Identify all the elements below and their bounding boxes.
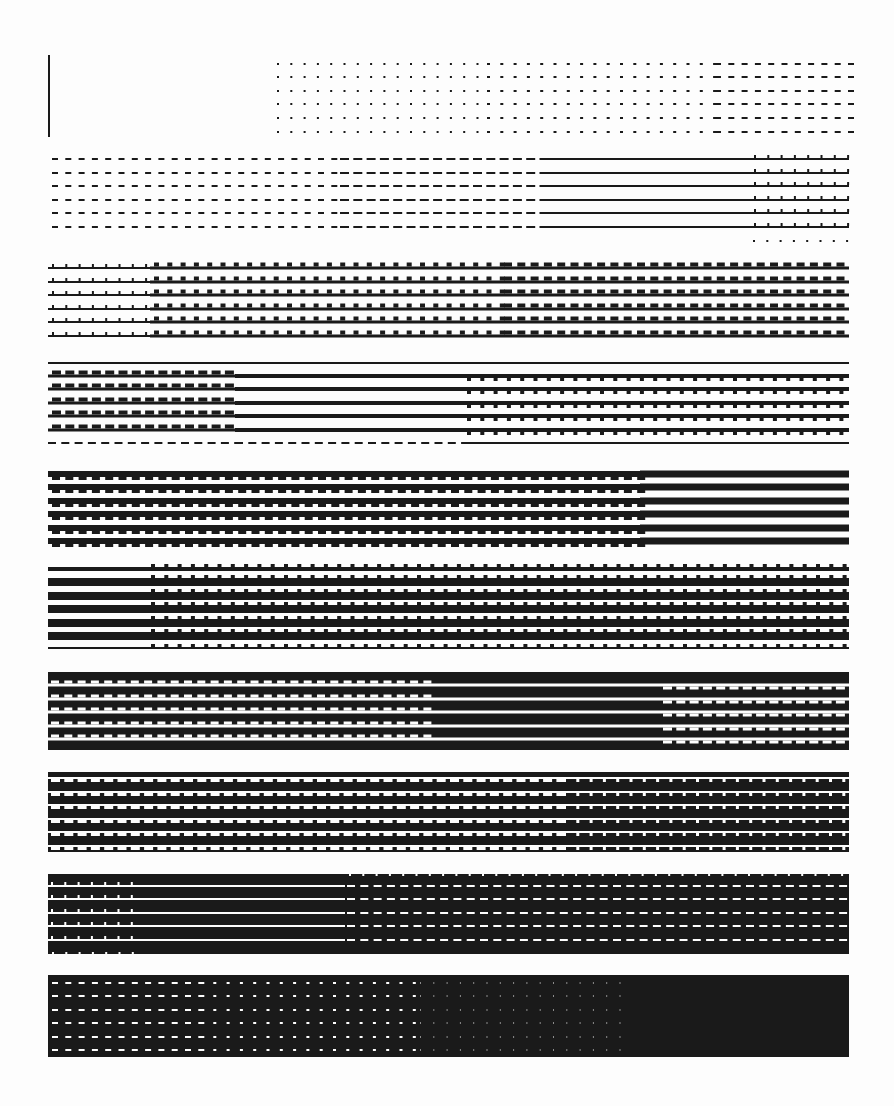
band-7	[48, 672, 849, 750]
band-2	[52, 155, 849, 242]
vertical-marker-line	[48, 55, 50, 137]
band-9	[48, 874, 849, 954]
test-pattern-page: Halftone line-pattern gray scale test sh…	[0, 0, 894, 1106]
band-6	[48, 564, 849, 649]
halftone-pattern-canvas	[0, 0, 894, 1106]
band-10-darkest	[48, 975, 849, 1057]
band-1-lightest	[277, 63, 854, 133]
band-8	[48, 772, 849, 852]
band-3	[48, 263, 849, 338]
band-4	[48, 362, 849, 444]
band-5	[48, 471, 849, 548]
